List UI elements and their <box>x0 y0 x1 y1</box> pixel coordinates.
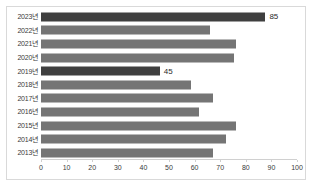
bar[interactable] <box>41 148 213 157</box>
bar-row: 2021년 <box>7 37 305 51</box>
bar-area <box>41 132 305 146</box>
tick-label: 60 <box>191 160 199 171</box>
bar[interactable] <box>41 26 210 35</box>
bar-area <box>41 37 305 51</box>
bar-track: 85 <box>41 12 305 21</box>
bar-track <box>41 107 305 116</box>
bar[interactable] <box>41 39 236 48</box>
category-label: 2013년 <box>7 149 41 156</box>
bar-row: 2020년 <box>7 51 305 65</box>
bar-row: 2019년45 <box>7 64 305 78</box>
bar[interactable] <box>41 67 160 76</box>
category-label: 2020년 <box>7 54 41 61</box>
category-label: 2021년 <box>7 40 41 47</box>
bar-track <box>41 39 305 48</box>
bar-value-label: 45 <box>164 67 173 75</box>
bar-chart: 2023년852022년2021년2020년2019년452018년2017년2… <box>0 0 314 190</box>
tick-label: 50 <box>165 160 173 171</box>
bar-area <box>41 105 305 119</box>
bar-area <box>41 92 305 106</box>
bar-track <box>41 121 305 130</box>
bar-row: 2015년 <box>7 119 305 133</box>
bar[interactable] <box>41 107 199 116</box>
bar-track: 45 <box>41 67 305 76</box>
category-label: 2022년 <box>7 27 41 34</box>
bar-area <box>41 119 305 133</box>
bar-row: 2023년85 <box>7 10 305 24</box>
bar-area: 85 <box>41 10 305 24</box>
category-label: 2016년 <box>7 108 41 115</box>
tick-label: 20 <box>88 160 96 171</box>
category-label: 2018년 <box>7 81 41 88</box>
bar-area: 45 <box>41 64 305 78</box>
category-label: 2019년 <box>7 68 41 75</box>
tick-label: 0 <box>39 160 43 171</box>
tick-label: 100 <box>291 160 303 171</box>
bar-track <box>41 135 305 144</box>
bar[interactable] <box>41 94 213 103</box>
bar[interactable] <box>41 53 234 62</box>
bar[interactable] <box>41 135 226 144</box>
bar-area <box>41 24 305 38</box>
bar-row: 2022년 <box>7 24 305 38</box>
tick-label: 70 <box>216 160 224 171</box>
bar[interactable] <box>41 80 191 89</box>
bar[interactable] <box>41 12 265 21</box>
tick-label: 90 <box>267 160 275 171</box>
bar-row: 2014년 <box>7 132 305 146</box>
bar-area <box>41 78 305 92</box>
bar[interactable] <box>41 121 236 130</box>
x-axis: 0102030405060708090100 <box>7 159 305 179</box>
bar-row: 2017년 <box>7 92 305 106</box>
bar-area <box>41 146 305 160</box>
bar-track <box>41 94 305 103</box>
tick-label: 80 <box>242 160 250 171</box>
bar-row: 2013년 <box>7 146 305 160</box>
category-label: 2017년 <box>7 95 41 102</box>
category-label: 2014년 <box>7 136 41 143</box>
bar-row: 2016년 <box>7 105 305 119</box>
bar-row: 2018년 <box>7 78 305 92</box>
bar-value-label: 85 <box>269 13 278 21</box>
bar-track <box>41 53 305 62</box>
plot-area: 2023년852022년2021년2020년2019년452018년2017년2… <box>6 6 306 180</box>
bar-rows: 2023년852022년2021년2020년2019년452018년2017년2… <box>7 10 305 160</box>
bar-track <box>41 80 305 89</box>
bar-area <box>41 51 305 65</box>
x-axis-ticks: 0102030405060708090100 <box>41 160 297 179</box>
tick-label: 40 <box>139 160 147 171</box>
tick-label: 10 <box>63 160 71 171</box>
bar-track <box>41 26 305 35</box>
category-label: 2015년 <box>7 122 41 129</box>
category-label: 2023년 <box>7 13 41 20</box>
bar-track <box>41 148 305 157</box>
tick-label: 30 <box>114 160 122 171</box>
